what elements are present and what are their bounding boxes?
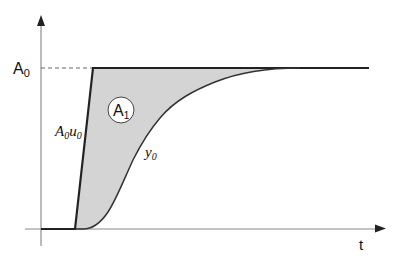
y-level-label-a0: A0 [13, 60, 30, 79]
ramp-label-a0u0: A0u0 [54, 123, 82, 141]
step-response-diagram: A1 A0 A0u0 y0 t [0, 0, 399, 263]
shaded-area-a1 [75, 68, 300, 229]
x-axis-arrow-icon [375, 225, 386, 233]
x-axis-label-t: t [359, 236, 364, 253]
curve-label-y0: y0 [143, 144, 157, 162]
y-axis-arrow-icon [37, 15, 45, 26]
